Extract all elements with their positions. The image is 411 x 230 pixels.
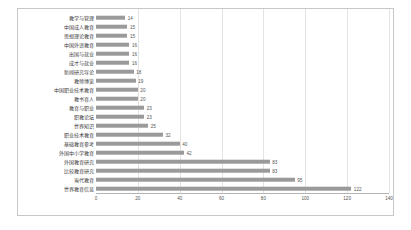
bar xyxy=(96,150,184,155)
bar-value-label: 32 xyxy=(163,132,171,137)
bar-value-label: 122 xyxy=(351,186,361,191)
category-label: 教学与管理 xyxy=(22,15,94,21)
bar-value-label: 16 xyxy=(129,51,137,56)
x-tick-label: 40 xyxy=(177,196,182,202)
category-label-row: 基础教育参考 xyxy=(20,139,94,148)
bar-value-label: 42 xyxy=(184,150,192,155)
category-label-row: 教师博览 xyxy=(20,76,94,85)
category-label-row: 中国职业技术教育 xyxy=(20,85,94,94)
bar xyxy=(96,96,138,101)
bar-row: 15 xyxy=(96,31,389,40)
bar-value-label: 95 xyxy=(295,177,303,182)
bar xyxy=(96,33,127,38)
category-label-row: 思想理论教育 xyxy=(20,31,94,40)
bar-row: 15 xyxy=(96,22,389,31)
bar-row: 20 xyxy=(96,94,389,103)
category-label-row: 外国教育研究 xyxy=(20,157,94,166)
bar-row: 16 xyxy=(96,49,389,58)
bar xyxy=(96,60,129,65)
bar-row: 25 xyxy=(96,121,389,130)
bar xyxy=(96,78,136,83)
category-label: 外国中小学教育 xyxy=(22,150,94,156)
bar-row: 18 xyxy=(96,67,389,76)
category-label-row: 新闻研究导论 xyxy=(20,67,94,76)
bar-value-label: 18 xyxy=(134,69,142,74)
category-label-row: 外国中小学教育 xyxy=(20,148,94,157)
bar-value-label: 16 xyxy=(129,60,137,65)
category-label: 中国成人教育 xyxy=(22,24,94,30)
bar xyxy=(96,141,180,146)
bar xyxy=(96,186,351,191)
category-label-row: 世界教育信息 xyxy=(20,184,94,193)
bar-row: 16 xyxy=(96,40,389,49)
bar-value-label: 23 xyxy=(144,114,152,119)
bar-value-label: 14 xyxy=(125,15,133,20)
category-label-row: 教书育人 xyxy=(20,94,94,103)
category-label-row: 中国成人教育 xyxy=(20,22,94,31)
category-label: 职教论坛 xyxy=(22,114,94,120)
bar-value-label: 83 xyxy=(270,168,278,173)
category-label: 教育与职业 xyxy=(22,105,94,111)
bar xyxy=(96,87,138,92)
category-label: 职业技术教育 xyxy=(22,132,94,138)
category-label: 思想理论教育 xyxy=(22,33,94,39)
category-label-row: 教育与职业 xyxy=(20,103,94,112)
x-tick-label: 100 xyxy=(301,196,309,202)
bar-row: 40 xyxy=(96,139,389,148)
category-label: 中国外语教育 xyxy=(22,42,94,48)
x-tick-label: 60 xyxy=(219,196,224,202)
bar xyxy=(96,105,144,110)
bar-row: 32 xyxy=(96,130,389,139)
bar-row: 14 xyxy=(96,13,389,22)
bar-row: 122 xyxy=(96,184,389,193)
category-label: 中国职业技术教育 xyxy=(22,87,94,93)
bar xyxy=(96,123,148,128)
gridline xyxy=(389,9,390,193)
bar-row: 42 xyxy=(96,148,389,157)
category-label: 出国与就业 xyxy=(22,51,94,57)
bar-value-label: 40 xyxy=(180,141,188,146)
x-tick-label: 20 xyxy=(135,196,140,202)
x-tick-label: 0 xyxy=(95,196,98,202)
bar xyxy=(96,69,134,74)
bar-value-label: 20 xyxy=(138,96,146,101)
category-label-row: 中国外语教育 xyxy=(20,40,94,49)
bar-value-label: 25 xyxy=(148,123,156,128)
bar-value-label: 16 xyxy=(129,42,137,47)
x-axis-line xyxy=(96,193,389,194)
x-tick-label: 140 xyxy=(385,196,393,202)
bar-row: 23 xyxy=(96,103,389,112)
chart-container: 教学与管理中国成人教育思想理论教育中国外语教育出国与就业成才与就业新闻研究导论教… xyxy=(17,8,394,216)
bar-row: 83 xyxy=(96,157,389,166)
bar-value-label: 15 xyxy=(127,24,135,29)
bar xyxy=(96,114,144,119)
bar xyxy=(96,159,270,164)
bar xyxy=(96,177,295,182)
category-label: 世界知识 xyxy=(22,123,94,129)
bars-area: 1415151616161819202023232532404283839512… xyxy=(96,9,389,215)
bar xyxy=(96,24,127,29)
x-tick-label: 80 xyxy=(261,196,266,202)
bar-row: 83 xyxy=(96,166,389,175)
category-label-row: 职业技术教育 xyxy=(20,130,94,139)
bar-value-label: 20 xyxy=(138,87,146,92)
category-label: 比较教育研究 xyxy=(22,168,94,174)
category-label: 外国教育研究 xyxy=(22,159,94,165)
category-label: 基础教育参考 xyxy=(22,141,94,147)
bar xyxy=(96,132,163,137)
bar xyxy=(96,51,129,56)
bar-value-label: 23 xyxy=(144,105,152,110)
bar-row: 19 xyxy=(96,76,389,85)
bar xyxy=(96,42,129,47)
bar-value-label: 83 xyxy=(270,159,278,164)
plot-area: 教学与管理中国成人教育思想理论教育中国外语教育出国与就业成才与就业新闻研究导论教… xyxy=(18,9,393,215)
category-label-row: 成才与就业 xyxy=(20,58,94,67)
category-label-row: 职教论坛 xyxy=(20,112,94,121)
category-label: 新闻研究导论 xyxy=(22,69,94,75)
category-label-row: 世界知识 xyxy=(20,121,94,130)
bar xyxy=(96,15,125,20)
x-tick-label: 120 xyxy=(343,196,351,202)
bar-row: 16 xyxy=(96,58,389,67)
category-label: 当代教育 xyxy=(22,177,94,183)
category-label: 教书育人 xyxy=(22,96,94,102)
